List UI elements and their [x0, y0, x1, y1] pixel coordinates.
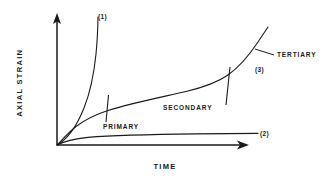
curve-tag-1: (1) — [98, 14, 107, 21]
secondary-tertiary-divider — [226, 67, 230, 105]
y-axis-title-text: AXIAL STRAIN — [16, 49, 24, 117]
curve-tag-3: (3) — [255, 67, 264, 74]
chart-canvas — [0, 0, 324, 185]
label-tertiary-stage: TERTIARY — [277, 52, 316, 59]
primary-secondary-divider — [106, 95, 109, 122]
creep-curve-3 — [57, 27, 268, 145]
label-secondary-stage: SECONDARY — [163, 105, 212, 112]
creep-curve-2 — [57, 133, 258, 145]
label-primary-stage: PRIMARY — [103, 124, 139, 131]
x-axis-title: TIME — [140, 163, 190, 171]
tertiary-leader-line — [255, 49, 274, 55]
creep-curve-figure: AXIAL STRAIN TIME PRIMARY SECONDARY TERT… — [0, 0, 324, 185]
curve-tag-2: (2) — [260, 131, 269, 138]
y-axis-title: AXIAL STRAIN — [13, 44, 27, 122]
